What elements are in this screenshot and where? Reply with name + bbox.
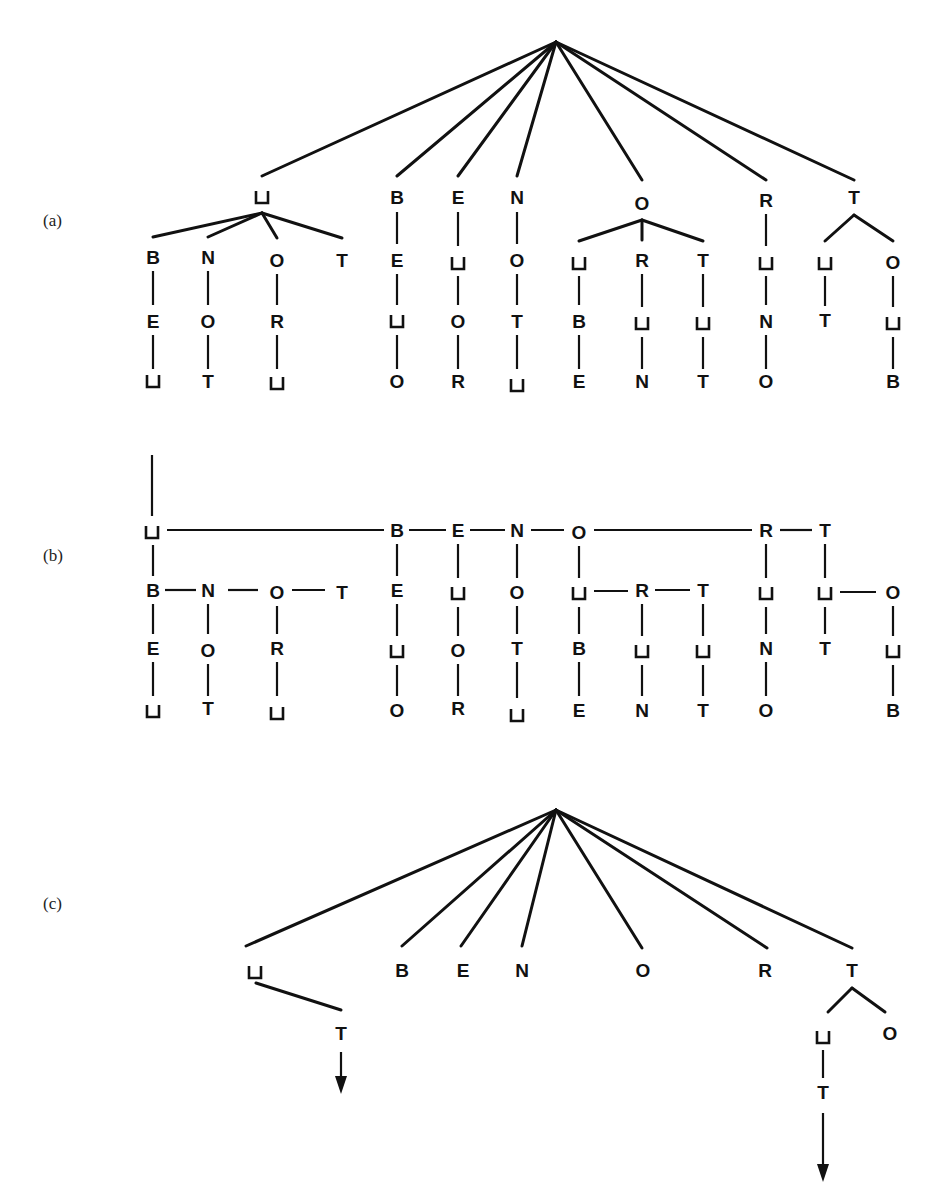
letter-node: B [572, 311, 586, 332]
blank-symbol-icon [511, 379, 523, 391]
letter-node: O [759, 371, 774, 392]
letter-node: T [336, 582, 348, 603]
tree-edge [852, 988, 885, 1012]
letter-node: O [390, 700, 405, 721]
tree-edge [153, 213, 262, 237]
tree-edge [642, 220, 703, 241]
blank-symbol-icon [147, 705, 159, 717]
letter-node: O [883, 1023, 898, 1044]
letter-node: O [201, 311, 216, 332]
letter-node: E [452, 520, 465, 541]
blank-symbol-icon [819, 587, 831, 599]
letter-node: T [819, 520, 831, 541]
letter-node: R [759, 190, 773, 211]
blank-symbol-icon [147, 375, 159, 387]
blank-symbol-icon [573, 257, 585, 269]
letter-node: O [572, 522, 587, 543]
letter-node: T [697, 371, 709, 392]
letter-node: E [391, 250, 404, 271]
panel-label-c: (c) [43, 894, 62, 913]
blank-symbol-icon [697, 317, 709, 329]
letter-node: B [395, 960, 409, 981]
letter-node: R [270, 638, 284, 659]
letter-node: T [511, 311, 523, 332]
tree-edge [522, 810, 556, 946]
blank-symbol-icon [452, 587, 464, 599]
tree-edge [397, 42, 556, 176]
blank-symbol-icon [249, 966, 261, 978]
blank-symbol-icon [271, 377, 283, 389]
letter-node: T [697, 250, 709, 271]
tree-edge [556, 42, 766, 180]
tree-edge [556, 810, 767, 948]
letter-node: O [451, 640, 466, 661]
blank-symbol-icon [391, 645, 403, 657]
letter-node: N [510, 187, 524, 208]
letter-node: B [886, 371, 900, 392]
letter-node: O [510, 250, 525, 271]
letter-node: E [147, 311, 160, 332]
letter-node: T [817, 1082, 829, 1103]
letter-node: O [759, 700, 774, 721]
blank-symbol-icon [636, 645, 648, 657]
blank-symbol-icon [887, 317, 899, 329]
letter-node: R [635, 250, 649, 271]
panel-a-trie: (a) BENORTBNOTEOTREOOROTRTBENTNOOTB [43, 42, 900, 392]
blank-symbol-icon [817, 1031, 829, 1043]
blank-symbol-icon [511, 709, 523, 721]
letter-node: B [572, 638, 586, 659]
blank-symbol-icon [697, 645, 709, 657]
letter-node: O [886, 582, 901, 603]
letter-node: N [201, 580, 215, 601]
tree-edge [458, 42, 556, 176]
letter-node: T [697, 700, 709, 721]
panel-label-a: (a) [43, 211, 62, 230]
letter-node: E [573, 700, 586, 721]
blank-symbol-icon [887, 645, 899, 657]
letter-node: O [636, 960, 651, 981]
letter-node: E [391, 580, 404, 601]
letter-node: O [635, 193, 650, 214]
tree-edge [208, 213, 262, 237]
letter-node: T [511, 638, 523, 659]
letter-node: O [886, 252, 901, 273]
blank-symbol-icon [819, 257, 831, 269]
letter-node: T [846, 960, 858, 981]
letter-node: O [390, 371, 405, 392]
blank-symbol-icon [760, 587, 772, 599]
blank-symbol-icon [146, 526, 158, 538]
letter-node: T [335, 1023, 347, 1044]
letter-node: T [202, 371, 214, 392]
panel-c-compressed-trie: (c) BENORTTOT [43, 810, 897, 1182]
blank-symbol-icon [760, 257, 772, 269]
letter-node: N [759, 638, 773, 659]
arrowhead-icon [817, 1164, 829, 1182]
letter-node: N [635, 371, 649, 392]
letter-node: R [758, 960, 772, 981]
letter-node: O [201, 640, 216, 661]
letter-node: B [146, 247, 160, 268]
letter-node: T [819, 310, 831, 331]
tree-edge [825, 215, 854, 241]
letter-node: T [202, 698, 214, 719]
letter-node: B [886, 700, 900, 721]
blank-symbol-icon [271, 707, 283, 719]
letter-node: E [452, 187, 465, 208]
tree-edge [854, 215, 893, 241]
letter-node: B [390, 520, 404, 541]
letter-node: R [270, 311, 284, 332]
letter-node: O [270, 582, 285, 603]
letter-node: E [573, 371, 586, 392]
tree-edge [517, 42, 556, 176]
blank-symbol-icon [573, 587, 585, 599]
letter-node: E [457, 960, 470, 981]
letter-node: N [201, 247, 215, 268]
panel-label-b: (b) [43, 546, 63, 565]
blank-symbol-icon [256, 191, 268, 203]
letter-node: N [510, 520, 524, 541]
letter-node: O [451, 311, 466, 332]
letter-node: R [759, 520, 773, 541]
letter-node: O [510, 582, 525, 603]
letter-node: T [819, 638, 831, 659]
suffix-trie-figure: (a) BENORTBNOTEOTREOOROTRTBENTNOOTB (b) … [0, 0, 951, 1203]
